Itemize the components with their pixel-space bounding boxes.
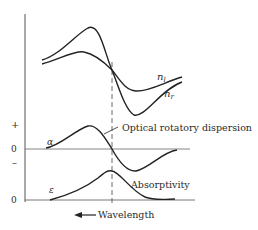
- wavelength-arrow-icon: [74, 212, 82, 218]
- ord-label: Optical rotatory dispersion: [122, 122, 252, 133]
- ord-pointer: [104, 127, 118, 134]
- zero-tick-upper: 0: [11, 144, 17, 154]
- absorptivity-label: Absorptivity: [130, 179, 190, 190]
- alpha-label: α: [47, 137, 53, 147]
- diagram: nl nr Optical rotatory dispersion α ε Ab…: [0, 0, 258, 230]
- epsilon-label: ε: [49, 185, 54, 195]
- plus-tick: +: [11, 119, 19, 130]
- wavelength-label: Wavelength: [98, 209, 154, 220]
- n-l-label: nl: [157, 71, 166, 84]
- n-r-label: nr: [164, 88, 174, 101]
- zero-tick-lower: 0: [11, 195, 17, 205]
- minus-tick: –: [12, 157, 17, 168]
